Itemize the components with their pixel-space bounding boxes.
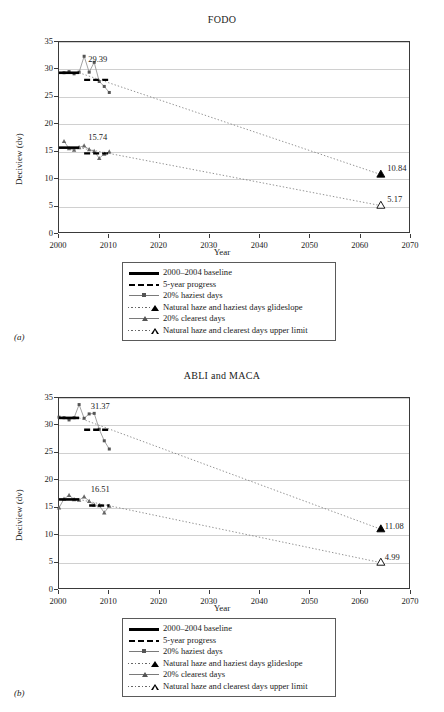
- x-axis-tick-label: 2060: [345, 596, 375, 606]
- legend-triangle-marker-icon: [142, 672, 148, 677]
- legend-open-triangle-icon: [151, 684, 159, 690]
- x-axis-tick-mark: [209, 234, 210, 238]
- y-axis-tick-mark: [54, 151, 58, 152]
- x-axis-tick-mark: [108, 590, 109, 594]
- legend-item-label: 5-year progress: [163, 635, 216, 646]
- legend-dashed-line-icon: [129, 640, 159, 642]
- y-axis-tick-label: 30: [31, 419, 53, 429]
- data-value-label: 16.51: [91, 484, 110, 494]
- plot-area-a: [58, 41, 410, 233]
- x-axis-tick-label: 2070: [395, 596, 425, 606]
- legend-key: [128, 646, 160, 657]
- x-axis-tick-mark: [410, 590, 411, 594]
- x-axis-tick-mark: [159, 590, 160, 594]
- y-axis-tick-label: 5: [31, 556, 53, 566]
- x-axis-tick-mark: [58, 234, 59, 238]
- series-line: [79, 73, 381, 175]
- x-axis-tick-label: 2050: [294, 596, 324, 606]
- x-axis-tick-mark: [410, 234, 411, 238]
- x-axis-tick-mark: [209, 590, 210, 594]
- legend-item: 20% clearest days: [128, 313, 329, 325]
- x-axis-tick-label: 2000: [43, 596, 73, 606]
- legend-filled-triangle-icon: [151, 305, 159, 311]
- legend-dotted-line-icon: [128, 686, 150, 687]
- y-axis-tick-mark: [54, 123, 58, 124]
- legend-item-label: Natural haze and clearest days upper lim…: [163, 681, 308, 692]
- data-point-marker: [103, 85, 106, 88]
- x-axis-tick-mark: [309, 590, 310, 594]
- legend-triangle-marker-icon: [142, 316, 148, 321]
- x-axis-tick-label: 2060: [345, 240, 375, 250]
- legend-item: 5-year progress: [128, 279, 329, 291]
- x-axis-tick-mark: [108, 234, 109, 238]
- data-point-marker: [62, 139, 66, 143]
- y-axis-tick-label: 10: [31, 529, 53, 539]
- legend-item-label: 20% haziest days: [163, 290, 223, 301]
- chart-panel-b: ABLI and MACA (b) Deciview (dv) Year 200…: [0, 356, 444, 712]
- data-point-marker: [108, 448, 111, 451]
- legend-item-label: 2000–2004 baseline: [163, 267, 232, 278]
- legend-item-label: Natural haze and haziest days glideslope: [163, 658, 303, 669]
- series-line: [59, 405, 109, 449]
- legend-key: [128, 290, 160, 301]
- x-axis-tick-label: 2040: [244, 240, 274, 250]
- data-point-marker: [88, 71, 91, 74]
- y-axis-tick-label: 25: [31, 446, 53, 456]
- y-axis-title-b: Deciview (dv): [14, 489, 24, 541]
- legend-item: 2000–2004 baseline: [128, 267, 329, 279]
- legend-key: [128, 681, 160, 692]
- y-axis-tick-mark: [54, 424, 58, 425]
- legend-item-label: 5-year progress: [163, 279, 216, 290]
- data-point-marker: [88, 412, 91, 415]
- y-axis-tick-label: 0: [31, 228, 53, 238]
- x-axis-tick-mark: [259, 234, 260, 238]
- endpoint-filled-triangle: [377, 170, 385, 177]
- y-axis-tick-mark: [54, 206, 58, 207]
- legend-open-triangle-icon: [151, 328, 159, 334]
- legend-key: [128, 279, 160, 290]
- y-axis-tick-label: 10: [31, 173, 53, 183]
- y-axis-tick-mark: [54, 96, 58, 97]
- y-axis-tick-label: 0: [31, 584, 53, 594]
- data-value-label: 31.37: [91, 401, 110, 411]
- data-value-label: 15.74: [88, 132, 107, 142]
- data-point-marker: [103, 439, 106, 442]
- y-axis-tick-mark: [54, 68, 58, 69]
- y-axis-tick-mark: [54, 397, 58, 398]
- x-axis-tick-label: 2040: [244, 596, 274, 606]
- series-layer: [59, 398, 411, 590]
- y-axis-tick-label: 5: [31, 200, 53, 210]
- x-axis-tick-label: 2050: [294, 240, 324, 250]
- y-axis-tick-mark: [54, 479, 58, 480]
- legend-square-marker-icon: [142, 293, 146, 297]
- legend-item-label: 20% clearest days: [163, 313, 225, 324]
- y-axis-tick-mark: [54, 562, 58, 563]
- legend-item: 5-year progress: [128, 635, 329, 647]
- legend-a: 2000–2004 baseline5-year progress20% haz…: [122, 262, 336, 341]
- data-point-marker: [82, 494, 86, 498]
- data-value-label: 5.17: [387, 194, 402, 204]
- x-axis-tick-label: 2000: [43, 240, 73, 250]
- x-axis-tick-label: 2030: [194, 596, 224, 606]
- x-axis-tick-label: 2070: [395, 240, 425, 250]
- legend-item-label: 2000–2004 baseline: [163, 623, 232, 634]
- legend-item-label: 20% clearest days: [163, 669, 225, 680]
- endpoint-open-triangle: [377, 558, 385, 565]
- series-layer: [59, 42, 411, 234]
- x-axis-tick-label: 2010: [93, 240, 123, 250]
- y-axis-tick-mark: [54, 452, 58, 453]
- y-axis-tick-label: 30: [31, 63, 53, 73]
- legend-solid-line-icon: [129, 628, 159, 630]
- y-axis-tick-label: 20: [31, 474, 53, 484]
- y-axis-tick-mark: [54, 178, 58, 179]
- x-axis-tick-label: 2010: [93, 596, 123, 606]
- data-value-label: 4.99: [385, 552, 400, 562]
- legend-dotted-line-icon: [128, 663, 150, 664]
- data-point-marker: [78, 403, 81, 406]
- x-axis-tick-label: 2030: [194, 240, 224, 250]
- legend-key: [128, 313, 160, 324]
- legend-item: Natural haze and haziest days glideslope: [128, 658, 329, 670]
- legend-key: [128, 302, 160, 313]
- x-axis-tick-mark: [309, 234, 310, 238]
- legend-solid-line-icon: [129, 272, 159, 274]
